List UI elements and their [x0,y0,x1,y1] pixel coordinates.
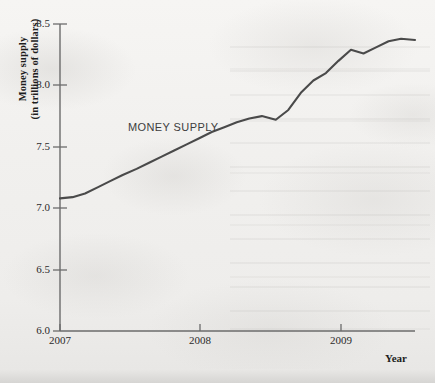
y-axis-title-line1: Money supply [17,37,28,102]
y-tick-label-7-0: 7.0 [22,201,50,213]
x-axis-ticks [60,324,341,331]
chart-figure: 8.5 8.0 7.5 7.0 6.5 6.0 2007 2008 2009 M… [0,0,435,383]
x-tick-label-2007: 2007 [37,334,83,346]
plot-area [0,0,435,383]
x-tick-label-2009: 2009 [318,334,364,346]
y-tick-label-6-5: 6.5 [22,263,50,275]
money-supply-line-series [60,39,415,199]
y-axis-title-line2: (in trillions of dollars) [29,19,40,120]
y-axis-title: Money supply (in trillions of dollars) [17,0,41,144]
x-tick-label-2008: 2008 [177,334,223,346]
x-axis-title: Year [385,352,407,364]
series-inline-label: MONEY SUPPLY [128,121,219,133]
